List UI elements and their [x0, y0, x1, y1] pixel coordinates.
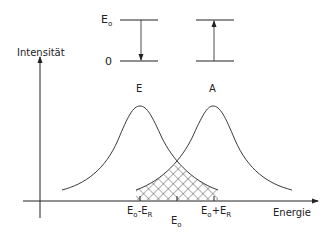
tick-label-right: Eo+ER	[201, 206, 231, 216]
upper-level-label: Eo	[101, 14, 112, 25]
emission-level-scheme	[120, 20, 158, 61]
y-axis-label: Intensität	[17, 48, 65, 58]
overlap-hatch	[130, 150, 225, 200]
emission-curve	[62, 106, 218, 190]
curve-label-e: E	[136, 84, 142, 94]
diagram-canvas	[0, 0, 330, 238]
x-axis-label: Energie	[273, 208, 311, 218]
absorption-curve	[136, 106, 292, 190]
absorption-level-scheme	[196, 20, 234, 61]
lower-level-label: 0	[105, 56, 112, 67]
tick-label-left: Eo-ER	[127, 206, 152, 216]
curve-label-a: A	[209, 84, 216, 94]
tick-label-center: Eo	[171, 216, 182, 226]
